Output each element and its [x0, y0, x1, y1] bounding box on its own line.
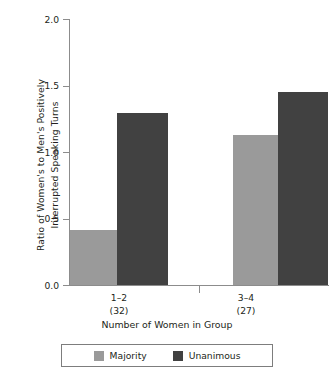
bar-unanimous-group-1-2: [117, 113, 168, 285]
y-tick-mark-0: [63, 285, 69, 286]
legend-label-majority: Majority: [110, 351, 147, 360]
y-tick-label-2: 1.0: [33, 148, 59, 157]
y-axis-title-line-2: Interrupted Speaking Turns: [48, 20, 62, 310]
x-group-category-3-4: 3–4: [206, 291, 286, 304]
bar-majority-group-1-2: [70, 230, 117, 285]
y-tick-label-3: 1.5: [33, 81, 59, 90]
x-axis-mid-tick: [199, 286, 200, 293]
bar-majority-group-3-4: [233, 135, 278, 285]
x-group-label-3-4: 3–4 (27): [206, 291, 286, 317]
bar-unanimous-group-3-4: [278, 92, 328, 285]
y-axis-title: Ratio of Women's to Men's Positively Int…: [34, 20, 64, 310]
plot-area: [69, 19, 329, 285]
legend-label-unanimous: Unanimous: [189, 351, 241, 360]
x-group-count-1-2: (32): [79, 304, 159, 317]
x-axis-title: Number of Women in Group: [0, 319, 334, 330]
y-tick-label-0: 0.0: [33, 281, 59, 290]
legend-entry-unanimous: Unanimous: [173, 351, 241, 361]
x-group-category-1-2: 1–2: [79, 291, 159, 304]
y-tick-label-1: 0.5: [33, 214, 59, 223]
legend-swatch-majority-icon: [94, 351, 104, 361]
chart-legend: Majority Unanimous: [61, 344, 273, 367]
legend-swatch-unanimous-icon: [173, 351, 183, 361]
x-group-label-1-2: 1–2 (32): [79, 291, 159, 317]
legend-entry-majority: Majority: [94, 351, 147, 361]
y-axis-title-line-1: Ratio of Women's to Men's Positively: [34, 20, 48, 310]
x-group-count-3-4: (27): [206, 304, 286, 317]
y-tick-label-4: 2.0: [33, 15, 59, 24]
bar-chart-figure: Ratio of Women's to Men's Positively Int…: [0, 0, 334, 376]
